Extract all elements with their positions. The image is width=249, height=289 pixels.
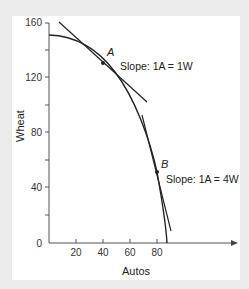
slope-a-annotation: Slope: 1A = 1W: [120, 60, 193, 72]
x-axis-title: Autos: [122, 265, 151, 277]
slope-b-annotation: Slope: 1A = 4W: [166, 173, 239, 185]
y-axis: [45, 23, 49, 243]
y-tick-160: 160: [25, 17, 42, 28]
y-tick-80: 80: [31, 127, 43, 138]
x-tick-80: 80: [151, 247, 163, 258]
point-b-marker: [155, 170, 159, 174]
y-tick-40: 40: [31, 182, 43, 193]
point-b-label: B: [161, 158, 168, 170]
x-tick-60: 60: [124, 247, 136, 258]
x-tick-20: 20: [70, 247, 82, 258]
point-a-label: A: [106, 46, 114, 58]
x-axis-arrow-icon: [231, 240, 238, 246]
x-axis: [49, 239, 233, 243]
y-tick-0: 0: [36, 238, 42, 249]
chart: 160 120 80 40 0 20 40 60 80 Autos Wheat …: [0, 0, 249, 289]
point-a-marker: [101, 61, 105, 65]
y-axis-title: Wheat: [14, 110, 26, 142]
y-tick-120: 120: [25, 72, 42, 83]
x-tick-40: 40: [97, 247, 109, 258]
